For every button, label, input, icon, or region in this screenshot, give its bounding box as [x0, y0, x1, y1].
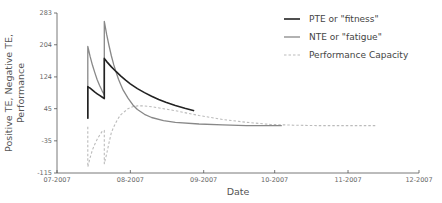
x-ticks: 07-200708-200709-200710-200711-200712-20…: [43, 170, 432, 184]
legend: PTE or "fitness" NTE or "fatigue" Perfor…: [284, 14, 409, 60]
y-tick-label: 283: [40, 9, 52, 17]
y-axis-title: Positive TE, Negative TE, Performance: [3, 34, 26, 152]
y-tick-label: 204: [40, 41, 52, 49]
y-tick-label: -35: [41, 137, 52, 145]
x-tick-label: 11-2007: [334, 176, 361, 184]
legend-label-pte: PTE or "fitness": [309, 14, 379, 24]
y-axis-title-line-1: Positive TE, Negative TE,: [3, 34, 14, 152]
x-tick-label: 08-2007: [117, 176, 144, 184]
series-line-nte: [88, 21, 282, 125]
y-tick-label: 124: [40, 73, 52, 81]
x-axis-title: Date: [227, 186, 250, 197]
series-line-pte: [88, 58, 194, 118]
x-tick-label: 07-2007: [43, 176, 70, 184]
x-tick-label: 09-2007: [190, 176, 217, 184]
chart: -115-3545124204283 07-200708-200709-2007…: [0, 0, 442, 203]
x-tick-label: 10-2007: [261, 176, 288, 184]
legend-label-performance: Performance Capacity: [309, 50, 409, 60]
legend-label-nte: NTE or "fatigue": [309, 32, 382, 42]
x-tick-label: 12-2007: [405, 176, 432, 184]
series-line-performance: [88, 106, 377, 167]
plot-lines: [88, 21, 377, 167]
legend-item-pte: PTE or "fitness": [284, 14, 379, 24]
y-ticks: -115-3545124204283: [37, 9, 57, 177]
legend-item-performance: Performance Capacity: [284, 50, 409, 60]
legend-item-nte: NTE or "fatigue": [284, 32, 382, 42]
y-tick-label: 45: [44, 105, 52, 113]
y-axis-title-line-2: Performance: [15, 63, 26, 123]
